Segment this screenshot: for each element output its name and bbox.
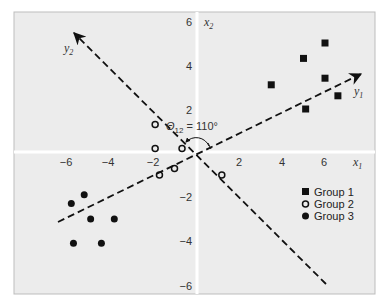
x-tick-label: 2 xyxy=(236,156,242,168)
data-point-group-1 xyxy=(300,55,307,62)
data-point-group-3 xyxy=(87,216,94,223)
x-tick-label: −6 xyxy=(60,156,73,168)
data-point-group-1 xyxy=(322,40,329,47)
data-point-group-3 xyxy=(98,240,105,247)
legend-label-group-2: Group 2 xyxy=(314,198,354,210)
y-tick-label: −6 xyxy=(179,280,192,292)
x-tick-label: 6 xyxy=(321,156,327,168)
data-point-group-3 xyxy=(81,191,88,198)
data-point-group-1 xyxy=(302,106,309,113)
y-tick-label: 2 xyxy=(186,104,192,116)
y-tick-label: −4 xyxy=(179,235,192,247)
y-tick-label: 4 xyxy=(186,60,192,72)
data-point-group-1 xyxy=(334,92,341,99)
data-point-group-1 xyxy=(322,75,329,82)
data-point-group-1 xyxy=(268,81,275,88)
data-point-group-3 xyxy=(68,200,75,207)
legend-marker-group-1 xyxy=(302,188,309,195)
legend-label-group-1: Group 1 xyxy=(314,186,354,198)
x-tick-label: 4 xyxy=(279,156,285,168)
x-tick-label: −2 xyxy=(147,156,160,168)
legend-label-group-3: Group 3 xyxy=(314,210,354,222)
y-tick-label: −2 xyxy=(179,191,192,203)
y-tick-label: 6 xyxy=(186,16,192,28)
x-tick-label: −4 xyxy=(102,156,115,168)
legend-marker-group-3 xyxy=(302,213,309,220)
data-point-group-3 xyxy=(70,240,77,247)
data-point-group-3 xyxy=(111,216,118,223)
scatter-chart: −6−4−2246 642−2−4−6 x1 x2 y1 y2 Θ12 = 11… xyxy=(0,0,387,304)
